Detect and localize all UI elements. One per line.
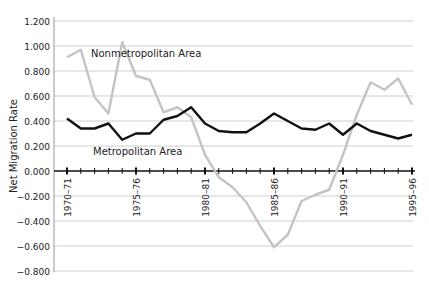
y-tick-label: 0.600 [24, 92, 50, 102]
y-tick-label: 0.400 [24, 117, 50, 127]
y-tick-label: 1.200 [24, 17, 50, 27]
x-tick-label: 1985–86 [270, 178, 280, 217]
series-nonmetropolitan-line [67, 42, 412, 247]
x-tick-label: 1990–91 [339, 178, 349, 217]
y-tick-label: −0.200 [17, 192, 51, 202]
net-migration-line-chart: 1.2001.0000.8000.6000.4000.2000.000−0.20… [0, 0, 429, 285]
y-tick-label: 0.000 [24, 167, 50, 177]
annotation-metropolitan: Metropolitan Area [93, 146, 182, 157]
y-tick-label: −0.600 [17, 242, 51, 252]
y-tick-label: 1.000 [24, 42, 50, 52]
chart-svg: 1.2001.0000.8000.6000.4000.2000.000−0.20… [0, 0, 429, 285]
x-tick-label: 1980–81 [201, 178, 211, 217]
y-tick-label: 0.800 [24, 67, 50, 77]
x-tick-label: 1970–71 [63, 178, 73, 217]
y-tick-label: −0.800 [17, 267, 51, 277]
y-axis-label: Net Migration Rate [8, 99, 19, 193]
y-axis-ticks: 1.2001.0000.8000.6000.4000.2000.000−0.20… [17, 17, 51, 277]
x-tick-label: 1995–96 [408, 178, 418, 217]
y-tick-label: −0.400 [17, 217, 51, 227]
x-tick-label: 1975–76 [132, 178, 142, 217]
series-metropolitan-line [67, 107, 412, 140]
y-tick-label: 0.200 [24, 142, 50, 152]
annotation-nonmetropolitan: Nonmetropolitan Area [91, 48, 201, 59]
